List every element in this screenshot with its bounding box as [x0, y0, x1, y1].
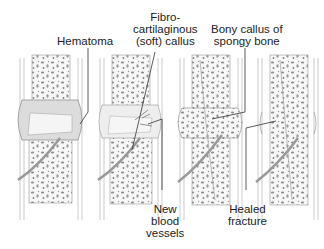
panel-hematoma: [18, 55, 82, 220]
label-soft-callus-line2: cartilaginous: [133, 23, 198, 35]
label-soft-callus: Fibro- cartilaginous (soft) callus: [133, 11, 198, 47]
label-bony-callus-line1: Bony callus of: [211, 23, 283, 35]
label-healed-fracture: Healed fracture: [228, 203, 267, 227]
label-bony-callus: Bony callus of spongy bone: [211, 23, 283, 47]
label-healed-fracture-line1: Healed: [228, 203, 267, 215]
panel-soft-callus: [98, 55, 162, 220]
label-bony-callus-line2: spongy bone: [211, 35, 283, 47]
label-soft-callus-line1: Fibro-: [133, 11, 198, 23]
label-new-blood-vessels-line1: New: [146, 203, 184, 215]
label-new-blood-vessels-line2: blood: [146, 215, 184, 227]
label-soft-callus-line3: (soft) callus: [133, 35, 198, 47]
panel-bony-callus: [178, 55, 242, 220]
label-new-blood-vessels-line3: vessels: [146, 227, 184, 239]
panel-healed: [256, 55, 318, 220]
label-healed-fracture-line2: fracture: [228, 215, 267, 227]
label-hematoma-text: Hematoma: [57, 35, 113, 47]
label-new-blood-vessels: New blood vessels: [146, 203, 184, 239]
label-hematoma: Hematoma: [57, 35, 113, 47]
